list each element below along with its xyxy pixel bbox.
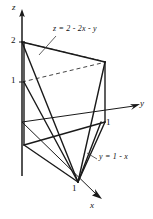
edge-plane-to-front-apex [22, 42, 78, 182]
z-tick-label-2: 2 [11, 36, 16, 45]
base-line-equation-label: y = 1 - x [99, 153, 128, 161]
edge-top-front [22, 42, 105, 62]
plane-equation-leader [39, 36, 56, 55]
y-axis-arrowhead [130, 104, 140, 110]
y-tick-label-1: 1 [106, 118, 111, 127]
z-tick-label-1: 1 [11, 76, 16, 85]
y-axis-label: y [140, 99, 144, 108]
leader-line-group [39, 36, 97, 159]
axis-group [19, 9, 140, 199]
x-axis-arrowhead [92, 189, 102, 199]
z-axis-label: z [12, 3, 16, 12]
hidden-edge-group [22, 42, 106, 82]
plane-equation-label: z = 2 - 2x - y [53, 25, 97, 33]
x-tick-label-1: 1 [72, 184, 77, 193]
x-axis-label: x [90, 201, 94, 210]
figure-container: z y x 2 1 1 1 z = 2 - 2x - y y = 1 - x [0, 0, 153, 219]
